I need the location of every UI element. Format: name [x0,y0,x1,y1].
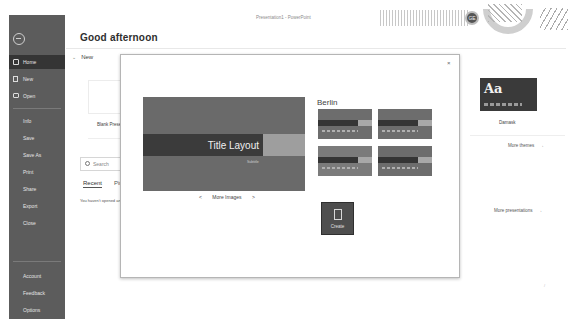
user-avatar[interactable]: GE [465,11,479,25]
variant-accent [358,120,372,126]
sidebar-item-open[interactable]: Open [9,89,65,103]
decorative-slashes [540,8,568,30]
new-file-icon [334,209,342,220]
home-icon [13,59,19,65]
sidebar-divider [13,261,61,262]
variant-dots [382,167,418,169]
theme-variant-4[interactable] [378,146,432,176]
theme-glyph: Aa [484,81,503,96]
theme-preview-dialog: × Title Layout Subtitle < More Images > … [120,54,460,278]
new-section-toggle[interactable]: ⌄New [72,54,93,60]
preview-title: Title Layout [208,140,259,151]
folder-open-icon [13,93,19,98]
sidebar-item-account[interactable]: Account [9,269,65,283]
more-presentations-link[interactable]: More presentations → [494,208,542,213]
sidebar-item-save-as[interactable]: Save As [9,148,65,162]
close-icon[interactable]: × [447,60,451,66]
sidebar-item-label: Home [23,59,36,65]
decorative-pattern [380,10,470,26]
variant-accent [358,157,372,163]
theme-variant-2[interactable] [378,109,432,139]
variant-dots [382,130,418,132]
backstage-sidebar: Home New Open Info Save Save As Print Sh… [9,15,65,319]
sidebar-item-options[interactable]: Options [9,303,65,317]
sidebar-item-label: Info [23,118,31,124]
arrow-right-icon: → [540,143,545,148]
variant-band [318,157,358,163]
sidebar-item-close[interactable]: Close [9,216,65,230]
new-document-icon [13,76,18,82]
decorative-stripes [488,4,522,22]
preview-accent-block [263,134,305,156]
tab-recent[interactable]: Recent [83,180,102,188]
sidebar-item-print[interactable]: Print [9,165,65,179]
sidebar-item-export[interactable]: Export [9,199,65,213]
sidebar-item-label: Feedback [23,290,45,296]
theme-variant-1[interactable] [318,109,372,139]
sidebar-item-new[interactable]: New [9,72,65,86]
image-navigation: < More Images > [199,194,264,200]
theme-color-dots [484,103,522,106]
slide-preview: Title Layout Subtitle [143,97,305,191]
sidebar-item-label: Print [23,169,33,175]
sidebar-item-share[interactable]: Share [9,182,65,196]
sidebar-divider [13,108,61,109]
theme-tile-damask[interactable]: Aa [480,78,537,111]
variant-accent [418,120,432,126]
sidebar-item-label: Close [23,220,36,226]
new-section-label: New [81,54,93,60]
sidebar-item-label: New [23,76,33,82]
chevron-right-icon[interactable]: > [252,194,255,200]
variant-dots [322,130,358,132]
sidebar-item-label: Options [23,307,40,313]
arrow-right-icon: → [538,208,543,213]
create-button[interactable]: Create [321,202,354,235]
variant-band [378,120,418,126]
header-divider [66,48,566,49]
sidebar-item-label: Open [23,93,35,99]
sidebar-item-label: Share [23,186,36,192]
sidebar-item-label: Save [23,135,34,141]
more-themes-link[interactable]: More themes → [508,143,544,148]
more-presentations-label: More presentations [494,208,533,213]
theme-name: Berlin [317,98,337,107]
create-button-label: Create [322,224,353,229]
more-themes-label: More themes [508,143,534,148]
window-title: Presentation1 - PowerPoint [256,15,311,20]
sidebar-item-save[interactable]: Save [9,131,65,145]
chevron-left-icon[interactable]: < [199,194,202,200]
variant-band [378,157,418,163]
variant-accent [418,157,432,163]
sidebar-item-label: Account [23,273,41,279]
sidebar-item-info[interactable]: Info [9,114,65,128]
page-title: Good afternoon [80,32,158,43]
scroll-indicator: / [544,283,545,288]
sidebar-item-label: Save As [23,152,41,158]
chevron-down-icon: ⌄ [72,54,76,60]
back-arrow-icon[interactable] [13,33,25,45]
search-placeholder: Search [93,161,109,167]
sidebar-item-label: Export [23,203,37,209]
theme-label: Damask [499,120,516,125]
variant-dots [322,167,358,169]
sidebar-item-feedback[interactable]: Feedback [9,286,65,300]
sidebar-item-home[interactable]: Home [9,55,65,69]
theme-variant-3[interactable] [318,146,372,176]
variant-band [318,120,358,126]
search-icon [85,161,90,166]
section-divider [470,135,565,136]
header-decoration: GE [380,4,570,44]
more-images-link[interactable]: More Images [212,194,241,200]
preview-subtitle: Subtitle [247,160,259,164]
